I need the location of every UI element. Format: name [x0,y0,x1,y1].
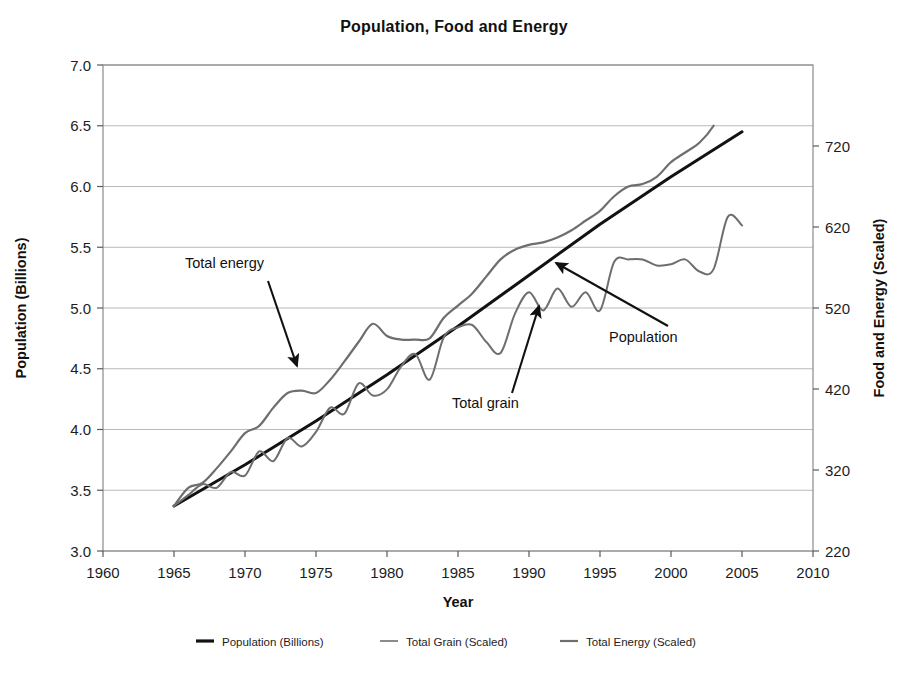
legend: Population (Billions)Total Grain (Scaled… [196,636,696,648]
series-line-2 [174,126,714,506]
annotation-label: Population [609,329,678,345]
grid-lines [103,65,813,551]
y2-tick-label: 220 [825,543,850,560]
chart-canvas: 1960196519701975198019851990199520002005… [0,0,908,673]
y-tick-label: 3.0 [70,543,91,560]
y-tick-label: 4.0 [70,421,91,438]
x-tick-label: 1980 [370,564,403,581]
x-tick-label: 2005 [725,564,758,581]
x-tick-label: 1960 [86,564,119,581]
y-tick-label: 3.5 [70,482,91,499]
x-tick-label: 1990 [512,564,545,581]
y-tick-label: 5.0 [70,300,91,317]
annotation-label: Total energy [185,255,265,271]
y2-tick-label: 620 [825,219,850,236]
chart-page: Population, Food and Energy 196019651970… [0,0,908,673]
y-axis-right-ticks: 220320420520620720 [813,138,850,560]
legend-label-0: Population (Billions) [222,636,324,648]
y-tick-label: 7.0 [70,57,91,74]
y-tick-label: 5.5 [70,239,91,256]
data-series-group [174,126,742,506]
y-tick-label: 6.5 [70,117,91,134]
y-axis-left-title: Population (Billions) [13,237,29,378]
annotation-arrow [268,281,297,366]
y-tick-label: 4.5 [70,360,91,377]
y2-tick-label: 320 [825,462,850,479]
legend-label-1: Total Grain (Scaled) [406,636,508,648]
y-axis-left-ticks: 3.03.54.04.55.05.56.06.57.0 [70,57,103,560]
x-tick-label: 2000 [654,564,687,581]
annotation-arrow [556,263,668,326]
y-tick-label: 6.0 [70,178,91,195]
x-tick-label: 1965 [157,564,190,581]
x-tick-label: 1975 [299,564,332,581]
x-axis-ticks: 1960196519701975198019851990199520002005… [86,551,829,581]
x-tick-label: 1970 [228,564,261,581]
y2-tick-label: 420 [825,381,850,398]
legend-label-2: Total Energy (Scaled) [586,636,696,648]
x-tick-label: 2010 [796,564,829,581]
annotations-group: Total energyTotal grainPopulation [185,255,678,411]
x-tick-label: 1995 [583,564,616,581]
y2-tick-label: 520 [825,300,850,317]
x-axis-title: Year [443,594,474,610]
annotation-label: Total grain [452,395,519,411]
y-axis-right-title: Food and Energy (Scaled) [871,218,887,397]
annotation-arrow [512,306,539,393]
x-tick-label: 1985 [441,564,474,581]
y2-tick-label: 720 [825,138,850,155]
